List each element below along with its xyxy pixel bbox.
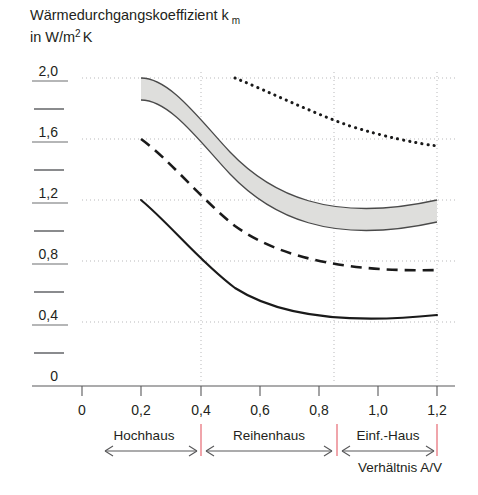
x-axis-caption: Verhältnis A/V bbox=[358, 460, 442, 475]
x-tick-label-0: 0 bbox=[78, 402, 86, 418]
chart-title-subscript: m bbox=[232, 15, 240, 26]
band-upper-bound-curve bbox=[141, 78, 437, 209]
y-axis: 2,0 1,6 1,2 0,8 0,4 0 bbox=[32, 63, 68, 384]
y-tick-label-1-2: 1,2 bbox=[39, 185, 59, 201]
segment-label-einf-haus: Einf.-Haus bbox=[356, 428, 419, 443]
x-tick-label-0-2: 0,2 bbox=[131, 402, 151, 418]
y-tick-label-0: 0 bbox=[50, 368, 58, 384]
y-tick-label-0-4: 0,4 bbox=[39, 307, 59, 323]
dotted-upper-curve bbox=[235, 78, 437, 146]
chart-units-prefix: in W/m bbox=[30, 29, 75, 45]
chart-svg: Wärmedurchgangskoeffizient km in W/m2K bbox=[0, 0, 478, 495]
segment-label-hochhaus: Hochhaus bbox=[114, 428, 175, 443]
chart-units-superscript: 2 bbox=[75, 28, 81, 39]
chart-title-main: Wärmedurchgangskoeffizient k bbox=[30, 7, 230, 23]
y-tick-label-2-0: 2,0 bbox=[39, 63, 59, 79]
x-tick-label-1-0: 1,0 bbox=[368, 402, 388, 418]
x-tick-label-0-4: 0,4 bbox=[191, 402, 211, 418]
chart-title-line-1: Wärmedurchgangskoeffizient km bbox=[30, 7, 240, 26]
chart-units-suffix: K bbox=[83, 29, 93, 45]
y-tick-label-0-8: 0,8 bbox=[39, 246, 59, 262]
chart-container: Wärmedurchgangskoeffizient km in W/m2K bbox=[0, 0, 478, 495]
chart-title-line-2: in W/m2K bbox=[30, 28, 93, 45]
x-tick-label-0-8: 0,8 bbox=[309, 402, 329, 418]
segment-label-reihenhaus: Reihenhaus bbox=[233, 428, 305, 443]
x-tick-label-1-2: 1,2 bbox=[427, 402, 447, 418]
x-axis: 0 0,2 0,4 0,6 0,8 1,0 1,2 bbox=[32, 386, 455, 418]
y-tick-label-1-6: 1,6 bbox=[39, 124, 59, 140]
building-type-segments: Hochhaus Reihenhaus Einf.-Haus bbox=[105, 428, 434, 456]
x-tick-label-0-6: 0,6 bbox=[250, 402, 270, 418]
